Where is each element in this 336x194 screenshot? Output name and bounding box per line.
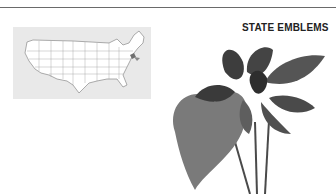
top-rule bbox=[0, 7, 336, 8]
violet-plant-illustration bbox=[165, 42, 336, 194]
page-heading: STATE EMBLEMS bbox=[242, 22, 329, 33]
us-map bbox=[13, 27, 151, 99]
us-map-outline-icon bbox=[13, 27, 151, 99]
